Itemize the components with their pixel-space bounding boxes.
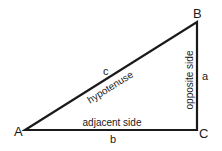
adjacent-side-name: adjacent side — [83, 117, 142, 128]
triangle-shape — [25, 22, 197, 130]
vertex-b-label: B — [193, 6, 202, 21]
vertex-a-label: A — [14, 124, 23, 139]
hypotenuse-letter: c — [103, 65, 109, 77]
adjacent-side-letter: b — [110, 133, 116, 145]
vertex-c-label: C — [199, 126, 208, 141]
opposite-side-letter: a — [202, 70, 209, 82]
right-triangle-diagram: A B C c hypotenuse adjacent side b oppos… — [0, 0, 222, 151]
opposite-side-name: opposite side — [184, 50, 195, 109]
